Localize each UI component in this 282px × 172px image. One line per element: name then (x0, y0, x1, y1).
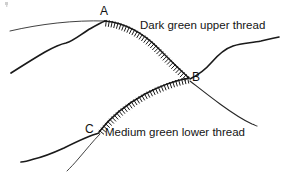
strand-B-to-upper-right (190, 37, 279, 79)
strand-B-to-lower-right (190, 81, 257, 126)
diagram-canvas: A B C Dark green upper thread Medium gre… (0, 0, 282, 172)
node-label-a: A (100, 5, 108, 17)
node-label-b: B (192, 71, 200, 83)
strand-C-to-lower-left (21, 133, 99, 162)
node-label-c: C (85, 123, 94, 135)
annotation-dark-green-upper-thread: Dark green upper thread (140, 19, 265, 31)
strand-thin-left-to-A (10, 21, 105, 31)
stitch-spine-lower (99, 78, 189, 132)
annotation-medium-green-lower-thread: Medium green lower thread (105, 126, 245, 138)
strand-thick-lowerleft-to-A (11, 21, 105, 73)
corner-speck-icon (5, 2, 8, 7)
